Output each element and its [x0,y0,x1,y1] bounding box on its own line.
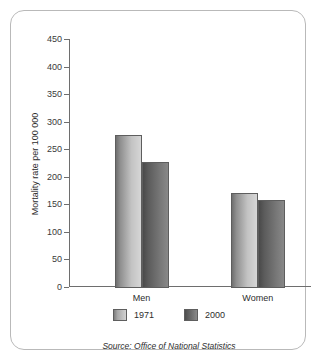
category-label-women: Women [242,293,273,303]
y-axis-tick-label: 300 [47,117,62,126]
y-axis-tick-label: 400 [47,62,62,71]
y-axis-tick-label: 350 [47,90,62,99]
y-axis-title: Mortality rate per 100 000 [28,39,42,288]
y-axis-tick-mark [64,149,69,150]
y-axis-tick-mark [64,204,69,205]
chart-legend: 1971 2000 [21,309,317,321]
y-axis-tick-label: 100 [47,227,62,236]
legend-item-2000[interactable]: 2000 [184,309,225,321]
legend-item-1971[interactable]: 1971 [113,309,154,321]
plot-area: 050100150200250300350400450 MenWomen [69,39,311,288]
y-axis-tick-label: 0 [57,283,62,292]
source-note: Source: Office of National Statistics [21,341,317,351]
bar-men-2000[interactable] [142,162,169,288]
y-axis-title-label: Mortality rate per 100 000 [30,112,40,215]
bar-women-2000[interactable] [258,200,285,288]
y-axis-tick-mark [64,232,69,233]
bar-men-1971[interactable] [115,135,142,288]
chart-frame: Mortality rate per 100 000 0501001502002… [10,10,306,350]
y-axis-tick-mark [64,39,69,40]
y-axis-tick-mark [64,94,69,95]
legend-label-1971: 1971 [134,310,154,320]
y-axis-tick-label: 50 [52,255,62,264]
y-axis-tick-mark [64,259,69,260]
y-axis-tick-mark [64,177,69,178]
y-axis-tick-mark [64,67,69,68]
y-axis-tick-label: 450 [47,35,62,44]
category-label-men: Men [133,293,151,303]
y-axis-tick-label: 200 [47,172,62,181]
y-axis-tick-mark [64,122,69,123]
legend-swatch-1971 [113,309,127,321]
y-axis-line [69,39,70,287]
legend-label-2000: 2000 [205,310,225,320]
y-axis-tick-label: 150 [47,200,62,209]
legend-swatch-2000 [184,309,198,321]
y-axis-tick-mark [64,287,69,288]
y-axis-tick-label: 250 [47,145,62,154]
bar-women-1971[interactable] [231,193,258,288]
